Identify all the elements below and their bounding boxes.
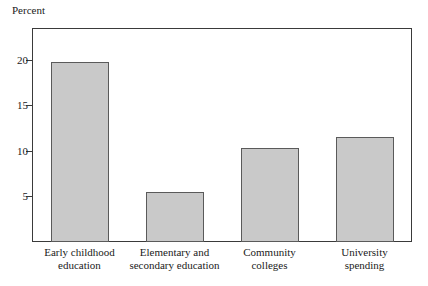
bar [336,137,394,242]
x-axis-category-label: Early childhood education [32,246,127,272]
y-tick-label: 5 [23,190,29,202]
bar-chart-figure: Percent 5101520 Early childhood educatio… [0,0,428,286]
x-axis-category-label: Elementary and secondary education [127,246,222,272]
plot-area: 5101520 [32,28,412,242]
y-tick-label: 10 [17,145,28,157]
bar [51,62,109,242]
bar [241,148,299,242]
y-tick-label: 20 [17,54,28,66]
y-axis-caption: Percent [12,4,45,16]
y-tick-label: 15 [17,99,28,111]
bar [146,192,204,242]
x-axis-category-label: University spending [317,246,412,272]
x-axis-category-label: Community colleges [222,246,317,272]
